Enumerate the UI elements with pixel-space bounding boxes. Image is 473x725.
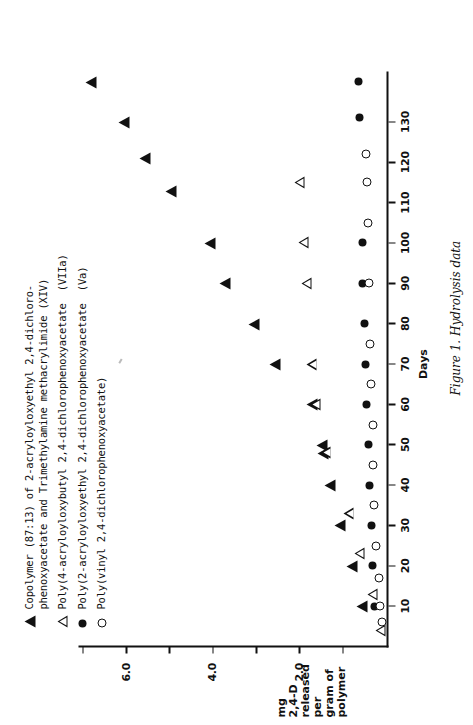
- x-axis-title: Days: [416, 349, 429, 379]
- x-tick: [388, 322, 395, 324]
- y-tick: [212, 646, 214, 653]
- scanned-figure-page: 102030405060708090100110120130 2.04.06.0…: [0, 0, 473, 725]
- scan-speck: [118, 358, 122, 363]
- data-point-filled-triangle: [324, 479, 335, 491]
- y-tick-label: 6.0: [119, 662, 132, 681]
- data-point-filled-circle: [354, 77, 362, 85]
- data-point-filled-triangle: [165, 185, 176, 197]
- legend-item: Poly(2-acryloyloxyethyl 2,4-dichlorophen…: [75, 254, 89, 629]
- y-tick: [168, 646, 170, 653]
- y-axis-title-line: released: [299, 597, 311, 717]
- x-tick-label: 120: [398, 151, 411, 173]
- legend-symbol-open-triangle: [55, 609, 68, 629]
- data-point-filled-triangle: [219, 277, 230, 289]
- open-circle-icon: [97, 618, 106, 627]
- data-point-open-circle: [364, 278, 373, 287]
- data-point-filled-triangle: [139, 152, 150, 164]
- legend-symbol-filled-triangle: [22, 609, 35, 629]
- x-tick-label: 10: [398, 598, 411, 613]
- data-point-filled-triangle: [269, 358, 280, 370]
- data-point-filled-triangle: [248, 318, 259, 330]
- legend-label: Poly(vinyl 2,4-dichlorophenoxyacetate): [94, 376, 108, 609]
- x-tick: [388, 484, 395, 486]
- legend-item: Poly(4-acryloyloxybutyl 2,4-dichlorophen…: [55, 254, 69, 629]
- data-point-open-circle: [363, 218, 372, 227]
- y-axis-title-line: gram of: [323, 597, 335, 717]
- legend-item: Poly(vinyl 2,4-dichlorophenoxyacetate): [94, 254, 108, 629]
- data-point-open-circle: [365, 339, 374, 348]
- data-point-open-triangle: [298, 236, 308, 248]
- legend-symbol-open-circle: [94, 609, 107, 629]
- legend: Copolymer (87:13) of 2-acryloyloxyethyl …: [22, 254, 114, 629]
- legend-label: Poly(4-acryloyloxybutyl 2,4-dichlorophen…: [55, 254, 69, 609]
- data-point-filled-circle: [362, 400, 370, 408]
- filled-triangle-icon: [24, 615, 35, 627]
- data-point-open-circle: [374, 573, 383, 582]
- x-tick: [388, 201, 395, 203]
- data-point-open-circle: [371, 541, 380, 550]
- x-tick: [388, 363, 395, 365]
- x-tick-label: 80: [398, 316, 411, 331]
- data-point-filled-circle: [360, 319, 368, 327]
- data-point-open-circle: [368, 420, 377, 429]
- y-axis-title-line: 2,4-D: [287, 597, 299, 717]
- data-point-open-triangle: [320, 446, 330, 458]
- data-point-filled-triangle: [85, 76, 96, 88]
- x-tick-label: 60: [398, 397, 411, 412]
- legend-item: Copolymer (87:13) of 2-acryloyloxyethyl …: [22, 254, 49, 629]
- y-axis-title: mg2,4-Dreleasedpergram ofpolymer: [275, 597, 347, 717]
- data-point-filled-triangle: [356, 600, 367, 612]
- data-point-open-circle: [366, 379, 375, 388]
- data-point-filled-triangle: [346, 560, 357, 572]
- x-tick-label: 110: [398, 191, 411, 213]
- y-axis-title-line: per: [311, 597, 323, 717]
- y-tick: [125, 646, 127, 653]
- data-point-filled-triangle: [334, 519, 345, 531]
- data-point-filled-circle: [365, 481, 373, 489]
- plot-area: 102030405060708090100110120130 2.04.06.0…: [0, 0, 473, 725]
- data-point-open-circle: [377, 617, 386, 626]
- y-axis-title-line: mg: [275, 597, 287, 717]
- data-point-open-circle: [368, 460, 377, 469]
- y-tick: [82, 646, 84, 653]
- x-tick: [388, 242, 395, 244]
- x-tick-label: 40: [398, 477, 411, 492]
- x-tick-label: 100: [398, 231, 411, 253]
- data-point-open-circle: [361, 149, 370, 158]
- legend-symbol-filled-circle: [75, 609, 88, 629]
- data-point-open-circle: [375, 601, 384, 610]
- legend-label: Poly(2-acryloyloxyethyl 2,4-dichlorophen…: [75, 266, 89, 609]
- x-tick: [388, 443, 395, 445]
- x-tick: [388, 524, 395, 526]
- x-tick-label: 50: [398, 437, 411, 452]
- data-point-filled-triangle: [204, 237, 215, 249]
- x-tick-label: 70: [398, 356, 411, 371]
- data-point-open-triangle: [301, 277, 311, 289]
- data-point-filled-circle: [361, 360, 369, 368]
- data-point-filled-circle: [364, 440, 372, 448]
- x-tick: [388, 605, 395, 607]
- x-axis-line: [386, 71, 388, 647]
- data-point-filled-circle: [368, 561, 376, 569]
- x-tick: [388, 121, 395, 123]
- data-point-filled-circle: [367, 521, 375, 529]
- x-tick-label: 30: [398, 518, 411, 533]
- y-tick-label: 4.0: [205, 662, 218, 681]
- data-point-filled-circle: [358, 238, 366, 246]
- filled-circle-icon: [78, 619, 86, 627]
- data-point-filled-triangle: [118, 116, 129, 128]
- data-point-open-triangle: [343, 507, 353, 519]
- data-point-open-circle: [362, 177, 371, 186]
- x-tick-label: 90: [398, 275, 411, 290]
- x-tick: [388, 565, 395, 567]
- y-axis-title-line: polymer: [335, 597, 347, 717]
- data-point-open-triangle: [367, 588, 377, 600]
- data-point-open-triangle: [354, 547, 364, 559]
- x-tick: [388, 403, 395, 405]
- data-point-open-triangle: [306, 358, 316, 370]
- data-point-open-triangle: [294, 176, 304, 188]
- data-point-filled-circle: [355, 113, 363, 121]
- x-tick-label: 20: [398, 558, 411, 573]
- legend-label: Copolymer (87:13) of 2-acryloyloxyethyl …: [22, 278, 49, 609]
- open-triangle-icon: [57, 615, 67, 627]
